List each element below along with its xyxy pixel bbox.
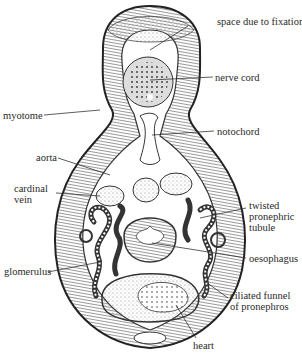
oesophagus <box>124 218 176 262</box>
label-ciliated-line2: of pronephros <box>230 301 289 312</box>
label-oesophagus: oesophagus <box>249 253 298 264</box>
label-heart: heart <box>193 340 214 351</box>
label-twisted-line3: tubule <box>249 222 275 233</box>
label-ciliated-line1: ciliated funnel <box>230 290 290 301</box>
label-glomerulus: glomerulus <box>4 266 51 277</box>
label-aorta: aorta <box>36 152 57 163</box>
label-twisted-line2: pronephric <box>249 211 294 222</box>
label-cardinal-vein-line2: vein <box>14 194 32 205</box>
nerve-cord <box>123 57 173 107</box>
label-nerve-cord: nerve cord <box>215 72 260 83</box>
label-twisted-line1: twisted <box>249 200 279 211</box>
label-myotome: myotome <box>3 110 43 121</box>
label-space-due-to-fixation: space due to fixation <box>217 16 302 27</box>
ventral-vessel <box>134 332 166 344</box>
label-notochord: notochord <box>217 126 260 137</box>
label-cardinal-vein-line1: cardinal <box>14 183 48 194</box>
heart <box>102 274 199 322</box>
